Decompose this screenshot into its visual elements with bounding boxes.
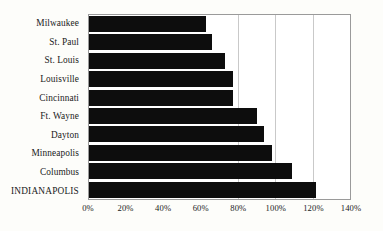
x-axis-tick-label: 120% xyxy=(303,203,323,213)
bar-row xyxy=(89,181,350,199)
x-axis-tick-label: 100% xyxy=(266,203,286,213)
bar xyxy=(89,182,316,198)
bar-row xyxy=(89,107,350,125)
bar-row xyxy=(89,144,350,162)
bar-row xyxy=(89,89,350,107)
bar xyxy=(89,16,206,32)
bar-series xyxy=(89,15,350,199)
x-axis-tick-label: 0% xyxy=(82,203,94,213)
bar xyxy=(89,108,257,124)
plot-area xyxy=(88,14,351,200)
x-axis-tick-labels: 0%20%40%60%80%100%120%140% xyxy=(88,203,351,217)
y-axis-label: Dayton xyxy=(0,126,84,145)
y-axis-label: Ft. Wayne xyxy=(0,107,84,126)
y-axis-label: Columbus xyxy=(0,163,84,182)
x-axis-tick-label: 80% xyxy=(230,203,246,213)
bar-chart: MilwaukeeSt. PaulSt. LouisLouisvilleCinc… xyxy=(0,0,383,231)
bar-row xyxy=(89,70,350,88)
bar xyxy=(89,163,292,179)
bar xyxy=(89,53,225,69)
bar xyxy=(89,34,212,50)
y-axis-label: INDIANAPOLIS xyxy=(0,181,84,200)
y-axis-label: Minneapolis xyxy=(0,144,84,163)
bar-row xyxy=(89,125,350,143)
y-axis-label: St. Paul xyxy=(0,33,84,52)
y-axis-category-labels: MilwaukeeSt. PaulSt. LouisLouisvilleCinc… xyxy=(0,14,84,200)
x-axis-tick-label: 40% xyxy=(155,203,171,213)
y-axis-label: Cincinnati xyxy=(0,88,84,107)
bar-row xyxy=(89,33,350,51)
x-axis-tick-label: 20% xyxy=(118,203,134,213)
x-axis-tick-label: 140% xyxy=(341,203,361,213)
y-axis-label: Louisville xyxy=(0,70,84,89)
y-axis-label: St. Louis xyxy=(0,51,84,70)
bar xyxy=(89,90,233,106)
bar xyxy=(89,71,233,87)
bar xyxy=(89,126,264,142)
y-axis-label: Milwaukee xyxy=(0,14,84,33)
x-axis-tick-label: 60% xyxy=(193,203,209,213)
bar-row xyxy=(89,162,350,180)
bar xyxy=(89,145,272,161)
bar-row xyxy=(89,52,350,70)
bar-row xyxy=(89,15,350,33)
